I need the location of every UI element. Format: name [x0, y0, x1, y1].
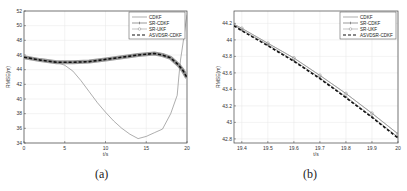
y-tick-label: 42.8 — [222, 136, 232, 142]
y-tick-label: 43.6 — [222, 70, 232, 76]
legend-label: ASVDSR-CDKF — [360, 33, 393, 38]
legend-label: CDKF — [360, 15, 373, 20]
caption-b: (b) — [303, 167, 317, 182]
y-tick-label: 44.2 — [222, 20, 232, 26]
y-tick-label: 44 — [16, 66, 22, 72]
y-tick-label: 46 — [16, 52, 22, 58]
x-tick-label: 20 — [395, 145, 401, 151]
series-asvdsr-cdkf — [234, 26, 398, 138]
y-axis-label: RMSE(m) — [5, 66, 11, 88]
figure: 0510152034363840424446485052t/sRMSE(m)CD… — [0, 0, 407, 191]
y-tick-label: 43 — [226, 119, 232, 125]
y-tick-label: 43.4 — [222, 86, 232, 92]
legend-label: SR-CDKF — [149, 21, 170, 26]
y-tick-label: 48 — [16, 37, 22, 43]
y-tick-label: 44 — [226, 37, 232, 43]
x-tick-label: 19.6 — [289, 145, 299, 151]
legend-label: SR-UKF — [360, 27, 377, 32]
x-tick-label: 0 — [23, 145, 26, 151]
x-axis-label: t/s — [313, 151, 319, 157]
y-tick-label: 34 — [16, 140, 22, 146]
y-tick-label: 50 — [16, 22, 22, 28]
legend: CDKFSR-CDKFSR-UKFASVDSR-CDKF — [129, 12, 185, 39]
x-tick-label: 5 — [63, 145, 66, 151]
legend-label: CDKF — [149, 15, 162, 20]
y-tick-label: 43.2 — [222, 103, 232, 109]
x-tick-label: 19.5 — [263, 145, 273, 151]
y-tick-label: 42 — [16, 81, 22, 87]
legend-label: SR-CDKF — [360, 21, 381, 26]
y-tick-label: 40 — [16, 96, 22, 102]
legend: CDKFSR-CDKFSR-UKFASVDSR-CDKF — [340, 12, 396, 39]
chart-panel-b: 19.419.519.619.719.819.92042.84343.243.4… — [215, 11, 401, 157]
x-tick-label: 15 — [143, 145, 149, 151]
x-tick-label: 20 — [184, 145, 190, 151]
y-tick-label: 43.8 — [222, 53, 232, 59]
caption-a: (a) — [95, 167, 108, 182]
series-sr-cdkf — [234, 25, 398, 137]
x-tick-label: 19.8 — [341, 145, 351, 151]
legend-label: SR-UKF — [149, 27, 166, 32]
y-tick-label: 38 — [16, 110, 22, 116]
x-tick-label: 19.4 — [237, 145, 247, 151]
x-tick-label: 19.9 — [367, 145, 377, 151]
y-tick-label: 36 — [16, 125, 22, 131]
legend-label: ASVDSR-CDKF — [149, 33, 182, 38]
y-tick-label: 52 — [16, 8, 22, 14]
chart-panel-a: 0510152034363840424446485052t/sRMSE(m)CD… — [5, 8, 190, 157]
x-axis-label: t/s — [103, 151, 109, 157]
y-axis-label: RMSE(m) — [215, 66, 221, 88]
